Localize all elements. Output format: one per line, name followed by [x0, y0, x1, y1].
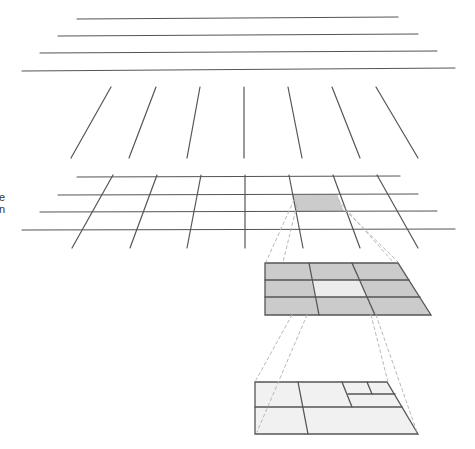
grid-horizontal-line — [40, 211, 437, 212]
slanted-line — [129, 87, 156, 158]
horizontal-line — [40, 51, 437, 53]
slanted-line — [332, 87, 360, 158]
dashed-connector-line — [338, 200, 393, 262]
horizontal-line — [22, 68, 455, 71]
dashed-connector-line — [266, 200, 294, 262]
vertical-lines-layer — [71, 87, 418, 158]
grid-horizontal-line — [77, 176, 400, 177]
dashed-connector-line — [283, 205, 297, 262]
horizontal-line — [58, 34, 418, 36]
grid-horizontal-line — [58, 194, 418, 195]
perspective-grid-layer — [22, 175, 455, 248]
slanted-line — [288, 87, 302, 158]
diagram-canvas — [0, 0, 475, 449]
slanted-line — [187, 87, 200, 158]
middle-grid-center-cell — [311, 280, 368, 297]
middle-grid-layer — [265, 263, 431, 315]
slanted-line — [376, 87, 418, 158]
slanted-line — [71, 87, 111, 158]
shaded-cell — [292, 194, 344, 212]
dashed-connector-line — [256, 315, 292, 380]
dashed-connector-line — [345, 210, 398, 262]
horizontal-line — [77, 17, 398, 19]
bottom-quadtree-outline — [255, 382, 418, 434]
dashed-connector-line — [371, 315, 388, 382]
bottom-quadtree-layer — [255, 382, 418, 434]
horizontal-lines-layer — [22, 17, 455, 71]
grid-horizontal-line — [22, 229, 455, 230]
